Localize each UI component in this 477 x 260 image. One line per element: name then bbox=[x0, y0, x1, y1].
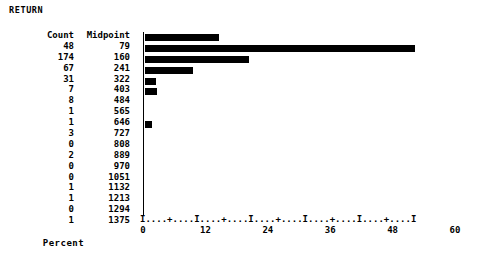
table-row: 0808 bbox=[0, 139, 136, 150]
table-row: 01051 bbox=[0, 172, 136, 183]
table-row: 1565 bbox=[0, 106, 136, 117]
x-axis-label: Percent bbox=[0, 238, 477, 248]
cell-count: 1 bbox=[0, 117, 74, 128]
cell-count: 0 bbox=[0, 172, 74, 183]
cell-midpoint: 79 bbox=[74, 41, 130, 52]
x-axis-tick-labels: 01224364860 bbox=[140, 225, 465, 237]
x-tick-label: 48 bbox=[387, 225, 398, 235]
table-header-row: Count Midpoint bbox=[0, 30, 136, 41]
table-row: 0970 bbox=[0, 161, 136, 172]
bar-row bbox=[145, 76, 457, 87]
cell-midpoint: 808 bbox=[74, 139, 130, 150]
bar-series bbox=[145, 32, 457, 216]
cell-count: 1 bbox=[0, 193, 74, 204]
cell-count: 174 bbox=[0, 52, 74, 63]
cell-midpoint: 889 bbox=[74, 150, 130, 161]
cell-midpoint: 727 bbox=[74, 128, 130, 139]
cell-count: 7 bbox=[0, 84, 74, 95]
bar-row bbox=[145, 130, 457, 141]
cell-count: 3 bbox=[0, 128, 74, 139]
bar-row bbox=[145, 43, 457, 54]
bar-row bbox=[145, 195, 457, 206]
cell-count: 0 bbox=[0, 204, 74, 215]
cell-count: 1 bbox=[0, 106, 74, 117]
cell-midpoint: 1375 bbox=[74, 215, 130, 226]
cell-count: 8 bbox=[0, 95, 74, 106]
bar-row bbox=[145, 174, 457, 185]
cell-midpoint: 1051 bbox=[74, 172, 130, 183]
cell-count: 0 bbox=[0, 161, 74, 172]
x-tick-label: 24 bbox=[262, 225, 273, 235]
table-row: 4879 bbox=[0, 41, 136, 52]
bar-row bbox=[145, 86, 457, 97]
table-row: 174160 bbox=[0, 52, 136, 63]
column-header-midpoint: Midpoint bbox=[74, 30, 130, 41]
table-row: 11213 bbox=[0, 193, 136, 204]
x-tick-label: 0 bbox=[140, 225, 145, 235]
table-row: 3727 bbox=[0, 128, 136, 139]
cell-midpoint: 1294 bbox=[74, 204, 130, 215]
cell-count: 2 bbox=[0, 150, 74, 161]
bar bbox=[145, 45, 415, 52]
table-row: 7403 bbox=[0, 84, 136, 95]
cell-midpoint: 403 bbox=[74, 84, 130, 95]
table-row: 8484 bbox=[0, 95, 136, 106]
bar-row bbox=[145, 65, 457, 76]
table-row: 01294 bbox=[0, 204, 136, 215]
bar-row bbox=[145, 54, 457, 65]
bar-row bbox=[145, 32, 457, 43]
table-row: 1646 bbox=[0, 117, 136, 128]
x-axis-ruler: I....+....I....+....I....+....I....+....… bbox=[140, 214, 416, 224]
table-row: 2889 bbox=[0, 150, 136, 161]
bar-row bbox=[145, 119, 457, 130]
cell-midpoint: 646 bbox=[74, 117, 130, 128]
cell-count: 67 bbox=[0, 63, 74, 74]
table-row: 11132 bbox=[0, 182, 136, 193]
bar-row bbox=[145, 184, 457, 195]
histogram-page: RETURN Count Midpoint 487917416067241313… bbox=[0, 0, 477, 260]
cell-midpoint: 484 bbox=[74, 95, 130, 106]
cell-count: 1 bbox=[0, 215, 74, 226]
cell-midpoint: 160 bbox=[74, 52, 130, 63]
vertical-axis-line bbox=[143, 32, 144, 216]
cell-count: 31 bbox=[0, 74, 74, 85]
bar-row bbox=[145, 108, 457, 119]
cell-midpoint: 565 bbox=[74, 106, 130, 117]
bar bbox=[145, 88, 157, 95]
bar-row bbox=[145, 152, 457, 163]
x-tick-label: 60 bbox=[450, 225, 461, 235]
plot-area bbox=[143, 32, 457, 216]
frequency-table: Count Midpoint 4879174160672413132274038… bbox=[0, 30, 136, 226]
bar bbox=[145, 78, 156, 85]
cell-midpoint: 1213 bbox=[74, 193, 130, 204]
cell-count: 1 bbox=[0, 182, 74, 193]
x-tick-label: 36 bbox=[325, 225, 336, 235]
bar-row bbox=[145, 97, 457, 108]
bar bbox=[145, 34, 219, 41]
cell-count: 48 bbox=[0, 41, 74, 52]
bar-row bbox=[145, 141, 457, 152]
bar-row bbox=[145, 163, 457, 174]
bar bbox=[145, 56, 249, 63]
x-axis-label-text: Percent bbox=[43, 238, 84, 248]
cell-midpoint: 241 bbox=[74, 63, 130, 74]
table-row: 11375 bbox=[0, 215, 136, 226]
cell-midpoint: 1132 bbox=[74, 182, 130, 193]
table-row: 31322 bbox=[0, 74, 136, 85]
x-tick-label: 12 bbox=[200, 225, 211, 235]
bar bbox=[145, 121, 152, 128]
page-title: RETURN bbox=[9, 5, 43, 15]
cell-midpoint: 970 bbox=[74, 161, 130, 172]
cell-midpoint: 322 bbox=[74, 74, 130, 85]
cell-count: 0 bbox=[0, 139, 74, 150]
bar bbox=[145, 67, 193, 74]
table-row: 67241 bbox=[0, 63, 136, 74]
column-header-count: Count bbox=[0, 30, 74, 41]
